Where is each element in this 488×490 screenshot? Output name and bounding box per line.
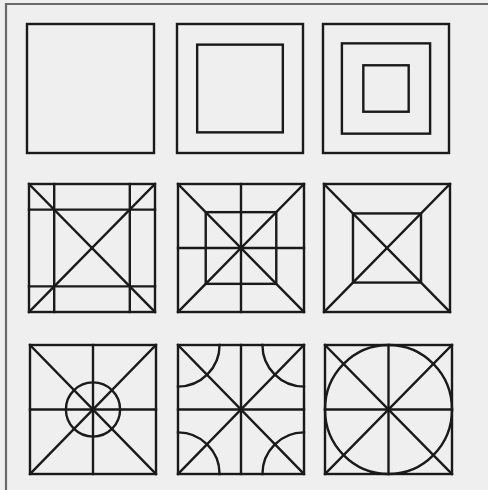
panel-plain-square bbox=[27, 24, 154, 153]
panel-grid bbox=[27, 24, 452, 474]
figure-canvas bbox=[0, 0, 488, 490]
panel-one-inset-square bbox=[177, 24, 303, 153]
panel-two-inset-squares bbox=[323, 24, 449, 153]
panel-diagonals-cross-astroid bbox=[325, 345, 452, 474]
panel-diagonals-cross-inner-square bbox=[178, 184, 304, 312]
panel-diagonals-cross-corner-arcs bbox=[178, 345, 304, 474]
panel-diagonals-with-border-grid bbox=[29, 184, 155, 312]
square-patterns-figure bbox=[0, 0, 488, 490]
panel-diagonals-inner-square bbox=[324, 184, 450, 312]
panel-diagonals-cross-center-circle bbox=[30, 345, 156, 474]
